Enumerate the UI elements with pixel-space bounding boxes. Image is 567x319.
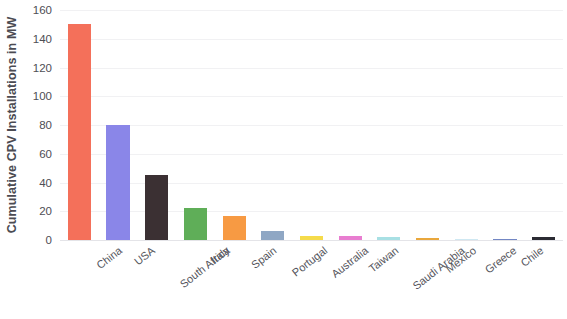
y-axis-tick-label: 160 — [33, 4, 52, 16]
y-axis-tick-label: 40 — [39, 177, 52, 189]
bar-slot — [486, 10, 525, 240]
y-axis-tick-label: 100 — [33, 90, 52, 102]
y-axis-title: Cumulative CPV Installations in MW — [0, 0, 24, 250]
bar[interactable] — [145, 175, 168, 240]
bar-slot — [137, 10, 176, 240]
bar[interactable] — [68, 24, 91, 240]
bar-slot — [331, 10, 370, 240]
bar-slot — [408, 10, 447, 240]
y-axis-tick-label: 140 — [33, 33, 52, 45]
x-axis-tick-labels: ChinaUSASouth AfricaItalySpainPortugalAu… — [60, 240, 563, 319]
bar-slot — [253, 10, 292, 240]
bar[interactable] — [261, 231, 284, 240]
bar-slot — [524, 10, 563, 240]
y-axis-title-text: Cumulative CPV Installations in MW — [5, 17, 19, 234]
bar-slot — [60, 10, 99, 240]
bar[interactable] — [223, 216, 246, 240]
bar[interactable] — [184, 208, 207, 240]
x-axis-tick-label: Portugal — [290, 244, 330, 279]
y-axis-tick-label: 20 — [39, 205, 52, 217]
x-axis-tick-label: China — [94, 244, 124, 271]
y-axis-tick-label: 120 — [33, 62, 52, 74]
plot-area — [60, 10, 563, 240]
bar-slot — [215, 10, 254, 240]
bar[interactable] — [106, 125, 129, 240]
x-axis-tick-label: Chile — [519, 244, 546, 269]
x-axis-tick-label: USA — [131, 244, 156, 267]
bar-slot — [447, 10, 486, 240]
bar-slot — [176, 10, 215, 240]
y-axis-tick-label: 0 — [46, 234, 52, 246]
cpv-installations-bar-chart: Cumulative CPV Installations in MW 02040… — [0, 0, 567, 319]
bar-slot — [370, 10, 409, 240]
y-axis-tick-label: 80 — [39, 119, 52, 131]
x-axis-tick-label: Spain — [249, 244, 279, 271]
y-axis-tick-labels: 020406080100120140160 — [24, 0, 56, 250]
y-axis-tick-label: 60 — [39, 148, 52, 160]
bar-slot — [99, 10, 138, 240]
x-axis-tick-label: Taiwan — [366, 244, 400, 275]
bar-slot — [292, 10, 331, 240]
x-axis-tick-label: Australia — [329, 244, 370, 280]
x-axis-tick-label: Greece — [482, 244, 518, 276]
